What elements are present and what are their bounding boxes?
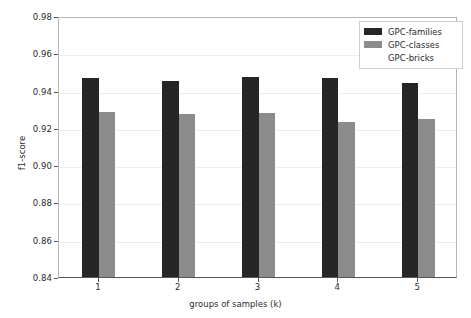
chart-figure: f1-score 0.840.860.880.900.920.940.960.9… [0, 0, 471, 318]
legend-label: GPC-classes [388, 40, 439, 50]
bar [322, 78, 339, 277]
y-tick-label: 0.88 [33, 198, 52, 208]
legend-swatch-icon [364, 28, 382, 35]
legend-swatch-icon [364, 54, 382, 61]
bar [242, 77, 259, 277]
x-tick-mark [417, 278, 418, 282]
y-tick-label: 0.94 [33, 87, 52, 97]
y-tick-label: 0.86 [33, 236, 52, 246]
bar [259, 113, 276, 277]
y-axis-label: f1-score [17, 123, 27, 183]
x-axis-label: groups of samples (k) [0, 299, 471, 309]
legend: GPC-familiesGPC-classesGPC-bricks [359, 21, 463, 69]
legend-label: GPC-families [388, 27, 442, 37]
legend-swatch-icon [364, 41, 382, 48]
legend-item: GPC-families [364, 25, 458, 38]
y-tick-label: 0.96 [33, 49, 52, 59]
bar [162, 81, 179, 277]
y-tick-mark [54, 278, 58, 279]
bar [99, 112, 116, 277]
legend-item: GPC-classes [364, 38, 458, 51]
bar [338, 122, 355, 277]
x-tick-label: 1 [95, 282, 100, 292]
bar [179, 114, 196, 277]
y-tick-label: 0.92 [33, 124, 52, 134]
legend-item: GPC-bricks [364, 51, 458, 64]
y-tick-label: 0.98 [33, 12, 52, 22]
y-tick-label: 0.90 [33, 161, 52, 171]
x-tick-mark [178, 278, 179, 282]
bar [402, 83, 419, 277]
bar [82, 78, 99, 277]
legend-label: GPC-bricks [388, 53, 434, 63]
x-tick-label: 2 [175, 282, 180, 292]
x-tick-mark [98, 278, 99, 282]
x-tick-label: 4 [335, 282, 340, 292]
y-tick-label: 0.84 [33, 273, 52, 283]
x-tick-label: 5 [414, 282, 419, 292]
x-tick-label: 3 [255, 282, 260, 292]
x-tick-mark [258, 278, 259, 282]
bar [418, 119, 435, 277]
x-tick-mark [337, 278, 338, 282]
